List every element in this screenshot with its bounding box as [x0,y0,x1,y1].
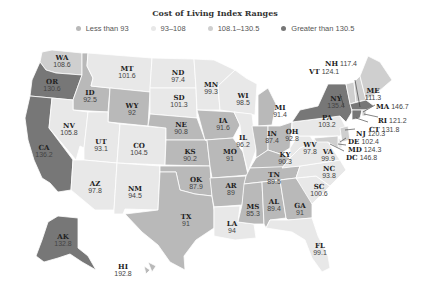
label-mt: MT101.6 [118,65,136,80]
label-hi: HI192.8 [114,263,132,278]
label-co: CO104.5 [130,142,148,157]
label-ne: NE90.8 [174,121,188,136]
state-hi-big[interactable] [144,266,150,274]
label-nc: NC93.8 [322,165,336,180]
label-vt: VT124.1 [309,59,339,78]
label-fl: FL99.1 [313,242,327,257]
label-ny: NY135.4 [327,95,345,110]
label-nm: NM94.5 [128,185,142,200]
label-il: IL96.2 [236,134,250,149]
label-pa: PA103.2 [318,114,336,129]
label-ga: GA91 [294,202,305,217]
label-wv: WV97.8 [303,141,317,156]
label-va: VA99.9 [321,148,335,163]
label-mn: MN99.3 [204,81,218,96]
label-wa: WA108.6 [53,54,71,69]
label-mo: MO91 [223,148,237,163]
label-ok: OK87.9 [189,176,203,191]
label-dc: DC146.8 [346,145,377,164]
label-ak: AK132.8 [54,233,72,248]
label-wi: WI98.5 [236,92,250,107]
label-la: LA94 [227,220,237,235]
label-nd: ND97.4 [171,69,185,84]
label-oh: OH92.8 [285,128,299,143]
label-nv: NV105.8 [60,122,78,137]
label-ca: CA136.2 [35,144,53,159]
label-wy: WY92 [126,102,139,117]
label-ar: AR89 [225,182,236,197]
label-tx: TX91 [181,213,192,228]
label-tn: TN89.5 [267,171,281,186]
state-de[interactable] [338,138,342,148]
label-mi: MI91.4 [273,104,287,119]
label-ky: KY90.3 [278,151,292,166]
label-ut: UT93.1 [94,138,108,153]
label-id: ID92.5 [83,89,97,104]
label-ms: MS85.3 [246,203,260,218]
label-ia: IA91.6 [216,117,230,132]
label-in: IN87.4 [265,130,279,145]
label-az: AZ97.8 [88,180,102,195]
label-or: OR130.6 [43,78,61,93]
label-ks: KS90.2 [183,148,197,163]
label-sc: SC100.6 [310,183,328,198]
label-sd: SD101.3 [170,94,188,109]
label-al: AL89.4 [267,198,281,213]
